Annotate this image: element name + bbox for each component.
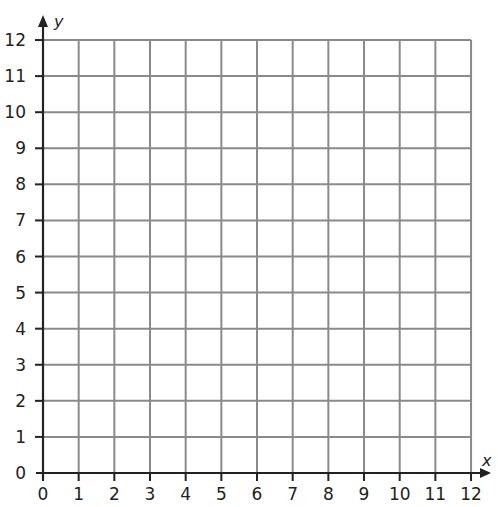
x-tick-label: 11 [425,484,447,504]
x-tick-labels: 0123456789101112 [38,484,482,504]
y-tick-label: 7 [15,210,26,230]
coordinate-grid: 0123456789101112 0123456789101112 x y [0,0,498,507]
x-tick-label: 5 [216,484,227,504]
y-axis-label: y [53,12,64,31]
y-axis-arrow-icon [38,15,48,27]
y-tick-label: 0 [15,463,26,483]
y-tick-label: 10 [4,102,26,122]
y-tick-label: 11 [4,66,26,86]
x-tick-label: 3 [145,484,156,504]
y-tick-label: 1 [15,427,26,447]
y-tick-label: 12 [4,30,26,50]
tick-marks [35,40,471,481]
x-tick-label: 7 [287,484,298,504]
x-tick-label: 4 [180,484,191,504]
grid-lines [43,40,471,473]
x-tick-label: 0 [38,484,49,504]
y-tick-label: 3 [15,355,26,375]
y-tick-label: 5 [15,283,26,303]
x-tick-label: 9 [359,484,370,504]
y-tick-label: 9 [15,138,26,158]
x-tick-label: 10 [389,484,411,504]
y-tick-label: 4 [15,319,26,339]
x-tick-label: 6 [252,484,263,504]
y-tick-labels: 0123456789101112 [4,30,26,483]
x-tick-label: 12 [460,484,482,504]
x-axis-label: x [481,451,492,470]
x-tick-label: 8 [323,484,334,504]
axes [36,15,491,480]
x-tick-label: 2 [109,484,120,504]
y-tick-label: 6 [15,247,26,267]
x-tick-label: 1 [73,484,84,504]
y-tick-label: 8 [15,174,26,194]
y-tick-label: 2 [15,391,26,411]
